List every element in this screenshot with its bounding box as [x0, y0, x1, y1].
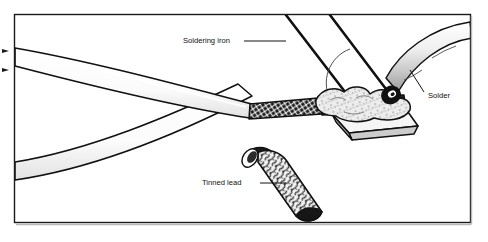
label-soldering-iron: Soldering iron — [183, 36, 230, 45]
label-tinned-lead: Tinned lead — [202, 178, 241, 187]
illustration-canvas — [15, 15, 473, 223]
soldering-illustration: Soldering iron Solder Tinned lead — [0, 0, 488, 242]
label-solder: Solder — [428, 91, 450, 100]
